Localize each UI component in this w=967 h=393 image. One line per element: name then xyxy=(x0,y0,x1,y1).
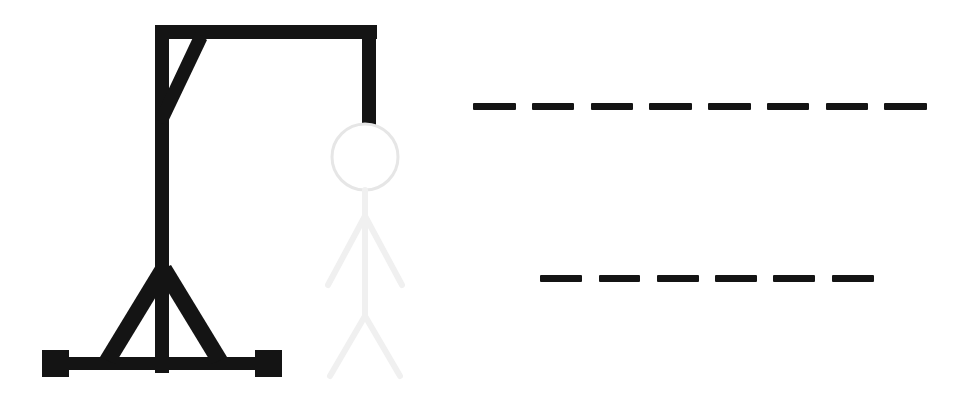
figure-left-arm xyxy=(328,216,365,285)
gallows-area xyxy=(0,0,440,393)
letter-blank-line xyxy=(767,103,809,110)
word-row-1 xyxy=(465,92,935,110)
figure-right-leg xyxy=(365,316,400,376)
letter-blank-line xyxy=(884,103,926,110)
letter-slot[interactable] xyxy=(876,92,935,110)
word-row-2 xyxy=(532,264,882,282)
letter-slot[interactable] xyxy=(759,92,818,110)
gallows-post xyxy=(155,25,169,373)
letter-slot[interactable] xyxy=(524,92,583,110)
letter-blank-line xyxy=(540,275,582,282)
gallows-beam xyxy=(155,25,377,39)
letter-blank-line xyxy=(591,103,633,110)
letter-slot[interactable] xyxy=(465,92,524,110)
letter-slot[interactable] xyxy=(532,264,590,282)
figure-left-leg xyxy=(330,316,365,376)
letter-slot[interactable] xyxy=(641,92,700,110)
letter-blank-line xyxy=(832,275,874,282)
letter-slot[interactable] xyxy=(583,92,642,110)
letter-blank-line xyxy=(473,103,515,110)
letter-blank-line xyxy=(708,103,750,110)
letter-blank-line xyxy=(532,103,574,110)
letter-blank-line xyxy=(773,275,815,282)
figure-right-arm xyxy=(365,216,402,285)
figure-head xyxy=(332,124,398,190)
letter-slot[interactable] xyxy=(649,264,707,282)
letter-blank-line xyxy=(657,275,699,282)
letter-slot[interactable] xyxy=(765,264,823,282)
gallows-drawing xyxy=(0,0,440,393)
letter-slot[interactable] xyxy=(707,264,765,282)
noose-rope xyxy=(362,33,376,127)
letter-blank-line xyxy=(826,103,868,110)
letter-slot[interactable] xyxy=(818,92,877,110)
letter-blank-line xyxy=(649,103,691,110)
letter-blank-line xyxy=(599,275,641,282)
letter-slot[interactable] xyxy=(824,264,882,282)
letter-blank-line xyxy=(715,275,757,282)
word-puzzle-area xyxy=(440,0,967,393)
letter-slot[interactable] xyxy=(590,264,648,282)
letter-slot[interactable] xyxy=(700,92,759,110)
hangman-game-canvas xyxy=(0,0,967,393)
